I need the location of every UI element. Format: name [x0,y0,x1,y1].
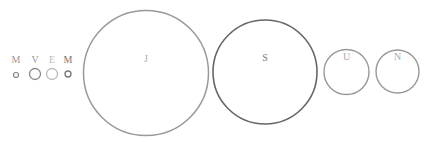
saturn-circle [213,20,317,124]
planet-neptune: N [376,50,419,93]
neptune-label: N [394,51,401,62]
earth-label: E [49,54,55,65]
mercury-label: M [12,54,21,65]
venus-circle [30,69,41,80]
planet-saturn: S [213,20,317,124]
earth-circle [47,69,58,80]
mercury-circle [14,73,19,78]
uranus-label: U [343,51,351,62]
jupiter-circle [84,11,209,136]
planet-earth: E [47,54,58,80]
mars-circle [65,71,71,77]
planet-size-diagram: M V E M J S U N [0,0,430,142]
planet-jupiter: J [84,11,209,136]
venus-label: V [31,54,39,65]
planet-mercury: M [12,54,21,78]
saturn-label: S [262,52,268,63]
planet-venus: V [30,54,41,80]
mars-label: M [64,54,73,65]
jupiter-label: J [144,53,148,64]
planet-mars: M [64,54,73,77]
planet-uranus: U [324,50,369,95]
